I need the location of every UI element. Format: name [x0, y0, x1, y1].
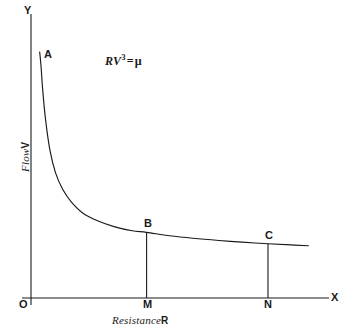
curve-rv3-mu: [40, 52, 309, 246]
y-axis-end-label: Y: [24, 5, 31, 16]
equation-annotation: RV3=μ: [105, 54, 142, 67]
point-label-c: C: [265, 230, 273, 241]
y-axis-title-text: Flow: [19, 149, 31, 172]
figure-canvas: Y X O A B C M N FlowV ResistanceR RV3=μ: [0, 0, 343, 332]
point-label-b: B: [144, 218, 152, 229]
equation-equals: =: [126, 54, 135, 68]
x-axis-title-var: R: [161, 315, 168, 326]
origin-label: O: [19, 299, 28, 310]
x-axis-title-text: Resistance: [112, 314, 161, 326]
y-axis-title-var: V: [20, 142, 31, 149]
x-tick-label-n: N: [264, 299, 272, 310]
x-tick-label-m: M: [143, 299, 152, 310]
equation-constant: μ: [135, 54, 142, 68]
x-axis-title: ResistanceR: [112, 315, 168, 326]
equation-base: RV: [105, 54, 121, 68]
point-label-a: A: [44, 49, 52, 60]
x-axis-end-label: X: [331, 292, 338, 303]
y-axis-title: FlowV: [20, 142, 31, 172]
